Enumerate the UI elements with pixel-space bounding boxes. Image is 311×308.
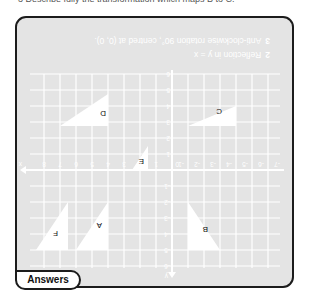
shape-label: B	[203, 225, 208, 234]
shape-label: C	[216, 107, 222, 116]
question-text: 3 Describe fully the transformation whic…	[18, 0, 235, 4]
rotated-content: 2Reflection in y = x 3Anti-clockwise rot…	[17, 18, 292, 286]
y-axis-label: y	[165, 273, 168, 280]
shape-label: A	[97, 221, 102, 230]
shape-label: D	[100, 109, 106, 118]
answers-panel: 2Reflection in y = x 3Anti-clockwise rot…	[15, 16, 294, 288]
shape-labels: B A E F C D	[15, 16, 292, 286]
x-axis-label: x	[19, 161, 22, 168]
shape-label: F	[53, 229, 58, 238]
answers-tab[interactable]: Answers	[15, 270, 81, 290]
